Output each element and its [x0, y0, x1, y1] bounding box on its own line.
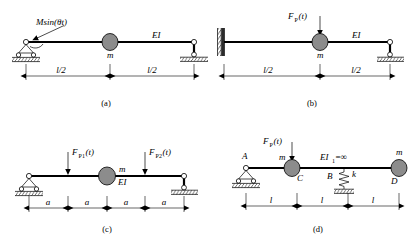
node-d-label-A: A	[241, 151, 248, 161]
dim-a-1: l/2	[56, 65, 66, 75]
dim-b-2: l/2	[351, 65, 361, 75]
dim-b-1: l/2	[263, 65, 273, 75]
support-b-left-fixed	[218, 28, 225, 56]
stiffness-b-label: EI	[351, 30, 361, 40]
panel-b: F P (t) m EI l/2 l/2	[218, 11, 405, 108]
dim-a-2: l/2	[147, 65, 157, 75]
mass-d-D: m D	[390, 147, 407, 186]
beam-diagrams-svg: Msin(θt) m EI l/2 l/2 (a)	[0, 0, 420, 249]
load-d-label-suffix: (t)	[274, 136, 283, 146]
mass-a: m	[102, 34, 118, 61]
dim-c-2: a	[85, 197, 90, 207]
caption-c: (c)	[102, 224, 112, 234]
node-d-label-C: C	[297, 173, 304, 183]
stiffness-d-value: =∞	[336, 152, 348, 162]
mass-b-label: m	[317, 50, 324, 60]
load-c2-label-suffix: (t)	[163, 147, 172, 157]
caption-b: (b)	[307, 98, 317, 108]
stiffness-c-label: EI	[117, 177, 127, 187]
dimensions-b: l/2 l/2	[224, 64, 390, 80]
load-a-label: Msin(θt)	[35, 17, 67, 27]
stiffness-a-label: EI	[151, 30, 161, 40]
dim-d-3: l	[372, 195, 375, 205]
mass-b: m	[312, 34, 328, 61]
load-c2-label-sub: P2	[156, 153, 162, 159]
load-b-label-base: F	[287, 11, 294, 21]
mass-d-label-2: m	[396, 147, 403, 157]
panel-d: A F P (t) m C EI 1 =∞ B	[232, 136, 407, 234]
support-d-spring: B k	[327, 168, 357, 193]
load-c1-label-base: F	[71, 147, 78, 157]
dim-c-1: a	[46, 197, 51, 207]
load-c1-label-sub: P1	[79, 153, 85, 159]
mass-c-label: m	[119, 164, 126, 174]
dim-c-3: a	[124, 197, 129, 207]
stiffness-d-label-group: EI 1 =∞	[319, 152, 347, 164]
dim-c-4: a	[162, 197, 167, 207]
load-d-force: F P (t)	[262, 136, 292, 159]
dimensions-c: a a a a	[29, 196, 184, 212]
support-d-left-pinned: A	[232, 151, 260, 188]
load-a-moment: Msin(θt)	[30, 17, 67, 48]
node-d-label-B: B	[327, 171, 333, 181]
spring-d-label-k: k	[352, 169, 357, 179]
caption-d: (d)	[313, 224, 323, 234]
caption-a: (a)	[101, 98, 111, 108]
dim-d-1: l	[270, 195, 273, 205]
node-d-label-D: D	[390, 176, 398, 186]
load-c-force-2: F P2 (t)	[145, 147, 171, 172]
load-c-force-1: F P1 (t)	[68, 147, 94, 172]
dim-d-2: l	[321, 195, 324, 205]
dimensions-a: l/2 l/2	[26, 64, 194, 80]
stiffness-d-base: EI	[319, 152, 329, 162]
mass-d-label-1: m	[279, 152, 286, 162]
panel-c: F P1 (t) F P2 (t) m EI	[15, 147, 198, 234]
mass-a-label: m	[107, 50, 114, 60]
panel-a: Msin(θt) m EI l/2 l/2 (a)	[12, 17, 208, 109]
load-b-force: F P (t)	[287, 11, 320, 33]
load-c2-label-base: F	[148, 147, 155, 157]
load-d-label-base: F	[262, 136, 269, 146]
load-c1-label-suffix: (t)	[86, 147, 95, 157]
dimensions-d: l l l	[246, 193, 399, 210]
load-b-label-suffix: (t)	[299, 11, 308, 21]
figure-canvas: Msin(θt) m EI l/2 l/2 (a)	[0, 0, 420, 249]
